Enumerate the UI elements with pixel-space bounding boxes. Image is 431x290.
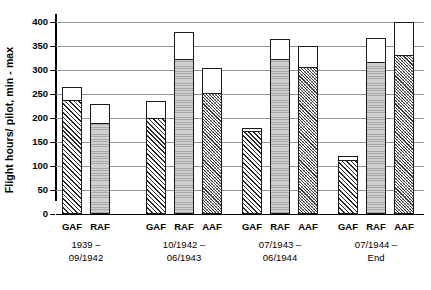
y-tick-mark: [50, 22, 55, 23]
bar-min-fill: [63, 100, 81, 213]
x-tick-label-aaf: AAF: [192, 222, 232, 232]
group-label-line2: 06/1943: [134, 251, 234, 264]
group-label-3: 07/1943 –06/1944: [230, 238, 330, 264]
y-tick-label: 0: [22, 209, 48, 219]
y-tick-mark: [50, 118, 55, 119]
bar-aaf-group-2: [202, 68, 222, 214]
y-axis-title-text: Flight hours/ pilot, min - max: [3, 47, 15, 194]
bar-min-fill: [367, 62, 385, 213]
bar-raf-group-1: [90, 104, 110, 214]
bar-gaf-group-4: [338, 156, 358, 214]
bar-aaf-group-3: [298, 46, 318, 214]
bar-min-fill: [299, 67, 317, 213]
group-label-line2: 09/1942: [36, 251, 136, 264]
y-tick-label: 300: [22, 65, 48, 75]
y-tick-mark: [50, 214, 55, 215]
bar-raf-group-2: [174, 32, 194, 214]
y-tick-mark: [50, 46, 55, 47]
x-tick-label-raf: RAF: [80, 222, 120, 232]
group-label-line1: 07/1944 –: [326, 238, 426, 251]
bar-gaf-group-2: [146, 101, 166, 214]
group-label-2: 10/1942 –06/1943: [134, 238, 234, 264]
flight-hours-chart: Flight hours/ pilot, min - max 050100150…: [0, 0, 431, 290]
y-tick-label: 150: [22, 137, 48, 147]
y-tick-mark: [50, 94, 55, 95]
group-label-line1: 07/1943 –: [230, 238, 330, 251]
group-label-line2: End: [326, 251, 426, 264]
y-tick-mark: [50, 166, 55, 167]
x-tick-label-aaf: AAF: [384, 222, 424, 232]
bar-min-fill: [243, 131, 261, 213]
bar-gaf-group-3: [242, 128, 262, 214]
bar-gaf-group-1: [62, 87, 82, 214]
y-tick-mark: [50, 190, 55, 191]
bar-min-fill: [175, 59, 193, 213]
y-tick-label: 200: [22, 113, 48, 123]
bar-min-fill: [339, 160, 357, 213]
y-tick-mark: [50, 142, 55, 143]
y-tick-label: 400: [22, 17, 48, 27]
y-tick-label: 350: [22, 41, 48, 51]
bar-raf-group-4: [366, 38, 386, 214]
bar-min-fill: [147, 118, 165, 213]
group-label-line1: 10/1942 –: [134, 238, 234, 251]
group-label-line1: 1939 –: [36, 238, 136, 251]
y-tick-mark: [50, 70, 55, 71]
y-tick-label: 250: [22, 89, 48, 99]
y-axis-title: Flight hours/ pilot, min - max: [0, 0, 18, 240]
bar-aaf-group-4: [394, 22, 414, 214]
x-tick-label-aaf: AAF: [288, 222, 328, 232]
group-label-1: 1939 –09/1942: [36, 238, 136, 264]
bar-min-fill: [91, 123, 109, 213]
bar-min-fill: [271, 59, 289, 213]
bar-min-fill: [203, 93, 221, 213]
y-tick-label: 50: [22, 185, 48, 195]
plot-area: [56, 14, 424, 222]
y-tick-label: 100: [22, 161, 48, 171]
group-label-line2: 06/1944: [230, 251, 330, 264]
bar-min-fill: [395, 55, 413, 213]
bar-raf-group-3: [270, 39, 290, 214]
group-label-4: 07/1944 –End: [326, 238, 426, 264]
